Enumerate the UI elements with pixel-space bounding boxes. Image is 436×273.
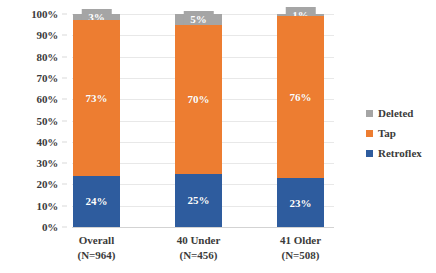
bar-segment-retroflex[interactable]: 25% — [175, 174, 222, 227]
legend-swatch-icon — [366, 130, 373, 137]
y-tick-mark — [62, 227, 67, 228]
legend-swatch-icon — [366, 150, 373, 157]
y-tick-mark — [62, 184, 67, 185]
y-tick-mark — [62, 120, 67, 121]
y-axis-tick-label: 80% — [0, 51, 58, 63]
bar-segment-retroflex[interactable]: 24% — [73, 176, 120, 227]
bar-segment-tap[interactable]: 76% — [277, 16, 324, 178]
data-label-retroflex: 24% — [73, 195, 120, 207]
y-tick-mark — [62, 77, 67, 78]
y-tick-mark — [62, 141, 67, 142]
x-axis-category-name: 40 Under — [177, 234, 221, 246]
chart-legend: DeletedTapRetroflex — [366, 103, 436, 163]
legend-item-label: Tap — [378, 127, 396, 139]
legend-swatch-icon — [366, 110, 373, 117]
gridline — [72, 227, 334, 228]
y-axis-tick-label: 40% — [0, 136, 58, 148]
y-tick-mark — [62, 14, 67, 15]
legend-item-label: Deleted — [378, 107, 413, 119]
bar-segment-tap[interactable]: 70% — [175, 25, 222, 174]
bar-segment-tap[interactable]: 73% — [73, 20, 120, 175]
y-axis-tick-label: 90% — [0, 29, 58, 41]
x-axis-category-label: 41 Older(N=508) — [241, 233, 361, 263]
y-axis-tick-label: 30% — [0, 157, 58, 169]
x-axis-category-name: Overall — [79, 234, 114, 246]
y-axis-tick-label: 20% — [0, 178, 58, 190]
y-axis-tick-label: 0% — [0, 221, 58, 233]
bar-segment-deleted[interactable]: 5% — [175, 14, 222, 25]
y-axis-tick-label: 50% — [0, 115, 58, 127]
x-axis-category-name: 41 Older — [280, 234, 321, 246]
y-axis-tick-label: 60% — [0, 93, 58, 105]
y-axis-tick-label: 70% — [0, 72, 58, 84]
data-label-tap: 76% — [277, 91, 324, 103]
data-label-retroflex: 25% — [175, 194, 222, 206]
y-tick-mark — [62, 35, 67, 36]
legend-item-retroflex[interactable]: Retroflex — [366, 143, 436, 163]
data-label-tap: 73% — [73, 92, 120, 104]
legend-item-deleted[interactable]: Deleted — [366, 103, 436, 123]
y-axis-tick-label: 10% — [0, 200, 58, 212]
y-tick-mark — [62, 99, 67, 100]
data-label-retroflex: 23% — [277, 197, 324, 209]
legend-item-tap[interactable]: Tap — [366, 123, 436, 143]
legend-item-label: Retroflex — [378, 147, 422, 159]
y-tick-mark — [62, 163, 67, 164]
bar-column[interactable]: 3%73%24% — [73, 14, 120, 227]
x-axis-category-count: (N=508) — [241, 248, 361, 263]
bar-segment-retroflex[interactable]: 23% — [277, 178, 324, 227]
stacked-bar-chart: 100%90%80%70%60%50%40%30%20%10%0% 3%73%2… — [0, 0, 436, 273]
y-tick-mark — [62, 205, 67, 206]
y-tick-mark — [62, 56, 67, 57]
data-label-tap: 70% — [175, 93, 222, 105]
bar-column[interactable]: 1%76%23% — [277, 14, 324, 227]
bar-column[interactable]: 5%70%25% — [175, 14, 222, 227]
plot-area: 3%73%24%5%70%25%1%76%23% — [72, 14, 334, 227]
y-axis-tick-label: 100% — [0, 8, 58, 20]
